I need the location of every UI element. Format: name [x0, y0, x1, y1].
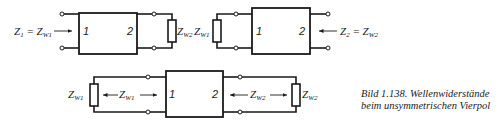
left-load-resistor: [90, 84, 98, 106]
terminal: [152, 12, 156, 16]
port-2-label: 2: [298, 25, 305, 37]
terminal: [234, 46, 238, 50]
terminal: [326, 46, 330, 50]
terminal: [60, 12, 64, 16]
terminal: [146, 110, 150, 114]
port-2-label: 2: [126, 25, 133, 37]
terminal: [60, 46, 64, 50]
terminal: [238, 110, 242, 114]
diagram-top-left: 1 2 Z1 = ZW1 ZW2: [14, 12, 193, 54]
terminal: [234, 12, 238, 16]
load-resistor: [213, 20, 221, 42]
diagram-bottom: ZW1 ZW1 1 2 ZW2 ZW2: [68, 71, 318, 117]
load-impedance-label: ZW2: [177, 25, 193, 39]
load-impedance-label: ZW1: [194, 25, 209, 39]
diagram-top-right: ZW1 1 2 Z2 = ZW2: [194, 8, 379, 54]
right-load-impedance-label: ZW2: [302, 88, 318, 102]
right-wave-impedance-label: ZW2: [250, 88, 266, 102]
port-2-label: 2: [211, 88, 218, 100]
terminal: [238, 75, 242, 79]
input-impedance-label: Z2 = ZW2: [340, 25, 379, 39]
terminal: [146, 75, 150, 79]
caption-line-1: Bild 1.138. Wellenwiderstände: [361, 88, 490, 100]
port-1-label: 1: [256, 25, 262, 37]
terminal: [326, 12, 330, 16]
terminal: [152, 46, 156, 50]
input-impedance-label: Z1 = ZW1: [14, 25, 52, 39]
left-wave-impedance-label: ZW1: [119, 88, 134, 102]
port-1-label: 1: [169, 88, 175, 100]
port-1-label: 1: [83, 25, 89, 37]
left-load-impedance-label: ZW1: [68, 88, 83, 102]
load-resistor: [168, 20, 176, 42]
figure-caption: Bild 1.138. Wellenwiderstände beim unsym…: [361, 88, 490, 112]
right-load-resistor: [292, 84, 300, 106]
caption-line-2: beim unsymmetrischen Vierpol: [361, 100, 490, 112]
